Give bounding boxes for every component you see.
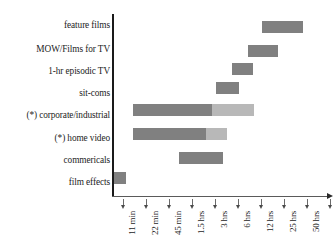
bar-segment-dark — [216, 82, 239, 94]
x-axis-line — [112, 196, 329, 197]
bar-segment-dark — [262, 21, 303, 33]
x-tick-label: 3 hrs — [219, 211, 229, 228]
bar-segment-dark — [232, 63, 253, 75]
x-axis-arrow-icon — [327, 193, 333, 199]
x-tick-label: 45 min — [173, 211, 183, 235]
x-tick-label: 50 hrs — [311, 211, 321, 232]
x-tick-arrow-icon — [305, 205, 309, 209]
x-tick-arrow-icon — [282, 205, 286, 209]
x-tick-arrow-icon — [328, 205, 332, 209]
x-tick-arrow-icon — [259, 205, 263, 209]
bar-feature-films — [262, 21, 303, 33]
bar-sit-coms — [216, 82, 239, 94]
bar-segment-dark — [248, 45, 278, 57]
bar-corporate-industrial — [133, 104, 254, 116]
bar-commericals — [179, 152, 223, 164]
bar-film-effects — [114, 172, 126, 184]
bar-segment-dark — [133, 128, 206, 140]
chart-container: feature films MOW/Films for TV 1-hr epis… — [0, 0, 334, 251]
bar-mow-films-for-tv — [248, 45, 278, 57]
bar-segment-light — [212, 104, 254, 116]
x-tick-arrow-icon — [236, 205, 240, 209]
x-tick-label: 22 min — [150, 211, 160, 235]
category-label-feature-films: feature films — [2, 21, 110, 30]
x-tick-label: 1.5 hrs — [196, 211, 206, 234]
category-label-1-hr-episodic-tv: 1-hr episodic TV — [2, 67, 110, 76]
category-axis-labels: feature films MOW/Films for TV 1-hr epis… — [0, 0, 110, 251]
x-tick-label: 25 hrs — [288, 211, 298, 232]
bar-segment-dark — [133, 104, 212, 116]
category-label-mow-films-for-tv: MOW/Films for TV — [2, 45, 110, 54]
bar-segment-dark — [179, 152, 223, 164]
y-axis-line — [112, 14, 114, 197]
x-tick-arrow-icon — [213, 205, 217, 209]
x-tick-arrow-icon — [121, 205, 125, 209]
bar-1-hr-episodic-tv — [232, 63, 253, 75]
bar-segment-light — [206, 128, 227, 140]
category-label-commericals: commericals — [2, 156, 110, 165]
x-tick-label: 6 hrs — [242, 211, 252, 228]
category-label-sit-coms: sit-coms — [2, 89, 110, 98]
bar-segment-dark — [114, 172, 126, 184]
category-label-home-video: (*) home video — [2, 134, 110, 143]
category-label-film-effects: film effects — [2, 178, 110, 187]
x-tick-label: 11 min — [127, 211, 137, 235]
category-label-corporate-industrial: (*) corporate/industrial — [2, 111, 110, 120]
x-tick-arrow-icon — [144, 205, 148, 209]
x-tick-arrow-icon — [190, 205, 194, 209]
x-tick-label: 12 hrs — [265, 211, 275, 232]
bar-home-video — [133, 128, 227, 140]
x-tick-arrow-icon — [167, 205, 171, 209]
